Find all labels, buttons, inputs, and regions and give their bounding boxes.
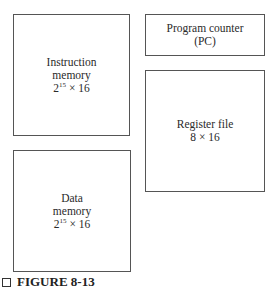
block-size: 215 × 16	[54, 218, 91, 231]
block-label: Data	[61, 192, 83, 205]
block-label: Program counter	[167, 22, 244, 35]
square-icon	[2, 278, 11, 287]
figure-caption: FIGURE 8-13	[2, 274, 95, 290]
block-label: Register file	[177, 118, 234, 131]
block-size: 215 × 16	[53, 82, 90, 95]
instruction-memory-block: Instruction memory 215 × 16	[13, 14, 130, 136]
register-file-block: Register file 8 × 16	[145, 70, 265, 192]
block-size: 8 × 16	[190, 131, 220, 144]
data-memory-block: Data memory 215 × 16	[13, 150, 131, 272]
caption-label: FIGURE 8-13	[17, 274, 95, 290]
block-label: Instruction	[47, 56, 97, 69]
block-label: (PC)	[194, 35, 216, 48]
program-counter-block: Program counter (PC)	[145, 14, 265, 56]
